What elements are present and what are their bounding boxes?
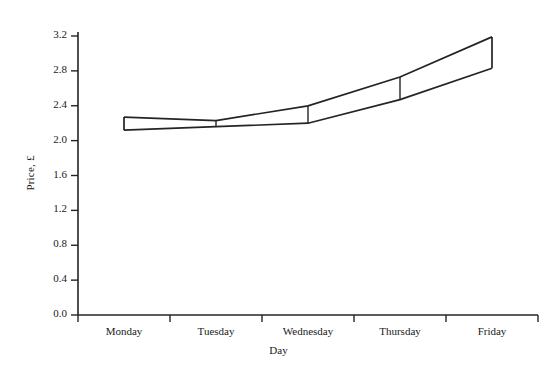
x-axis-title: Day xyxy=(0,344,557,356)
y-tick-label: 0.8 xyxy=(53,237,67,249)
x-tick-label: Friday xyxy=(432,325,552,337)
y-axis-title: Price, £ xyxy=(24,143,36,203)
y-tickmarks xyxy=(71,36,78,315)
y-tick-label: 2.8 xyxy=(53,63,67,75)
x-tickmarks xyxy=(78,315,538,322)
plot-area xyxy=(0,0,557,370)
y-tick-label: 3.2 xyxy=(53,28,67,40)
y-tick-label: 0.4 xyxy=(53,272,67,284)
y-tick-label: 2.0 xyxy=(53,133,67,145)
y-tick-label: 1.6 xyxy=(53,168,67,180)
y-tick-label: 2.4 xyxy=(53,98,67,110)
y-tick-label: 1.2 xyxy=(53,202,67,214)
y-tick-label: 0.0 xyxy=(53,307,67,319)
chart-figure: Price, £ Day 0.00.40.81.21.62.02.42.83.2… xyxy=(0,0,557,370)
